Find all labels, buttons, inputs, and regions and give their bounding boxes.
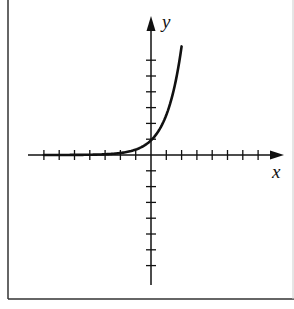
y-axis: y bbox=[146, 11, 171, 285]
y-axis-arrow-icon bbox=[147, 16, 156, 31]
x-axis-arrow-icon bbox=[270, 151, 284, 160]
y-axis-label: y bbox=[160, 11, 171, 32]
graph-figure: x y bbox=[0, 0, 294, 309]
exponential-curve bbox=[44, 46, 182, 155]
x-axis-label: x bbox=[271, 161, 281, 182]
